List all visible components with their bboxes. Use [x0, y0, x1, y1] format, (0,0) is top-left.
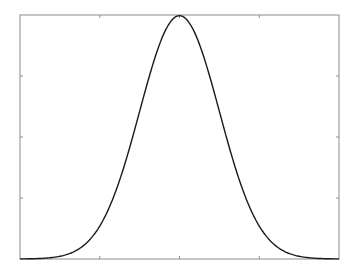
gaussian-chart: [0, 0, 357, 272]
plot-area: [20, 15, 339, 259]
